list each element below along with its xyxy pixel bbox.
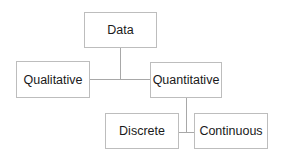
- node-qualitative: Qualitative: [16, 61, 90, 98]
- connector-qualitative-quantitative: [90, 79, 150, 80]
- connector-discrete-continuous: [179, 132, 194, 133]
- node-data-label: Data: [107, 23, 133, 37]
- node-quantitative-label: Quantitative: [153, 73, 220, 87]
- node-continuous-label: Continuous: [199, 124, 262, 138]
- node-continuous: Continuous: [194, 113, 268, 149]
- node-data: Data: [84, 12, 157, 48]
- node-qualitative-label: Qualitative: [23, 73, 82, 87]
- connector-quantitative-down: [186, 98, 187, 132]
- connector-data-down: [120, 47, 121, 79]
- node-quantitative: Quantitative: [150, 62, 222, 98]
- node-discrete-label: Discrete: [119, 124, 165, 138]
- node-discrete: Discrete: [105, 113, 179, 149]
